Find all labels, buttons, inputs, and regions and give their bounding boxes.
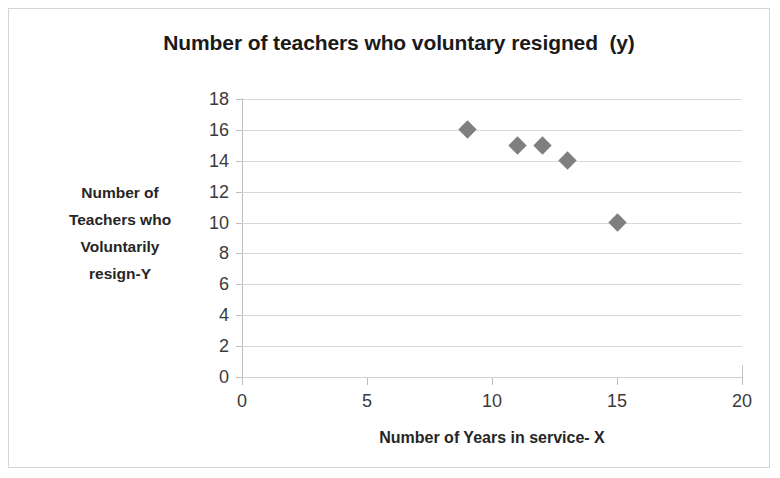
y-tick-label: 14 <box>185 152 229 170</box>
gridline <box>242 284 742 285</box>
x-axis-title: Number of Years in service- X <box>242 429 742 447</box>
chart-title: Number of teachers who voluntary resigne… <box>69 31 729 55</box>
y-tick-label: 12 <box>185 183 229 201</box>
y-axis-title-line: Voluntarily <box>47 233 193 260</box>
gridline <box>242 346 742 347</box>
gridline <box>242 315 742 316</box>
y-tick-label: 16 <box>185 121 229 139</box>
data-point <box>458 121 476 139</box>
x-tick-mark <box>492 377 493 385</box>
data-point <box>533 136 551 154</box>
gridline <box>242 130 742 131</box>
x-tick-label: 5 <box>337 392 397 410</box>
x-tick-mark <box>742 377 743 385</box>
gridline <box>242 253 742 254</box>
gridline <box>242 99 742 100</box>
y-tick-label: 8 <box>185 244 229 262</box>
y-tick-label: 0 <box>185 368 229 386</box>
y-axis-title-line: resign-Y <box>47 260 193 287</box>
plot-area <box>242 99 742 377</box>
gridline <box>242 223 742 224</box>
y-axis-title: Number of Teachers who Voluntarily resig… <box>47 179 193 287</box>
x-tick-mark <box>367 377 368 385</box>
x-tick-mark <box>617 377 618 385</box>
data-point <box>608 213 626 231</box>
data-point <box>558 152 576 170</box>
chart-frame: Number of teachers who voluntary resigne… <box>8 8 770 468</box>
x-tick-label: 15 <box>587 392 647 410</box>
x-tick-label: 0 <box>212 392 272 410</box>
y-tick-label: 10 <box>185 214 229 232</box>
x-tick-label: 10 <box>462 392 522 410</box>
y-axis-title-line: Teachers who <box>47 206 193 233</box>
x-tick-mark <box>242 377 243 385</box>
gridline <box>242 161 742 162</box>
gridline <box>242 192 742 193</box>
y-tick-label: 2 <box>185 337 229 355</box>
gridline <box>242 377 742 378</box>
y-tick-label: 4 <box>185 306 229 324</box>
x-tick-label: 20 <box>712 392 772 410</box>
y-tick-label: 18 <box>185 90 229 108</box>
y-axis-title-line: Number of <box>47 179 193 206</box>
data-point <box>508 136 526 154</box>
y-tick-label: 6 <box>185 275 229 293</box>
